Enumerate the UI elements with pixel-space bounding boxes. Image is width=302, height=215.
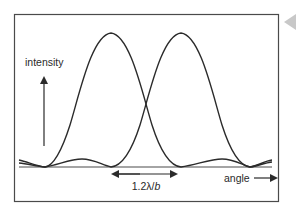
separation-label: 1.2λ/b: [132, 180, 161, 192]
x-axis-label: angle: [224, 172, 250, 184]
y-axis-label: intensity: [25, 56, 64, 68]
diffraction-diagram: intensity 1.2λ/b angle: [0, 0, 302, 215]
triangle-marker-icon: [284, 14, 296, 30]
curve-source-1: [19, 33, 272, 167]
